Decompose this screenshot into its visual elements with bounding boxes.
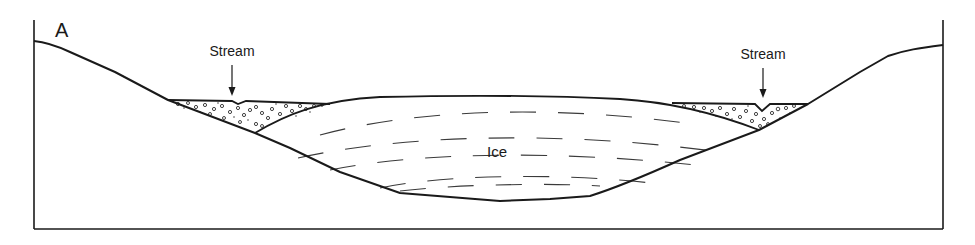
flow-line-3 [330, 155, 705, 170]
left-gravel-deposit [168, 100, 330, 133]
right-gravel-deposit [672, 103, 808, 130]
ice-label: Ice [487, 143, 507, 160]
left-stream-arrow [229, 65, 236, 96]
right-stream-label: Stream [740, 46, 785, 62]
glacial-valley-cross-section: A Stream Stream Ice [0, 0, 975, 245]
flow-line-1 [320, 112, 700, 135]
flow-line-2 [298, 138, 720, 158]
right-stream-arrow [760, 68, 767, 98]
flow-line-5 [400, 184, 600, 191]
left-stream-label: Stream [209, 43, 254, 59]
panel-label: A [55, 19, 69, 41]
frame [34, 20, 943, 229]
ice-surface [255, 96, 759, 133]
